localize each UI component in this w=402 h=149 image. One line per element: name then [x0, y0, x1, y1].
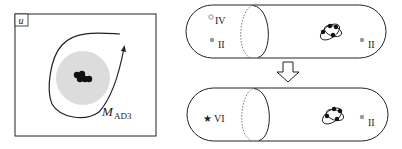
trajectory-label-subscript: AD3	[114, 111, 132, 121]
gray-dot-icon	[210, 38, 214, 42]
open-circle-icon	[209, 15, 213, 19]
arrowhead-icon	[121, 45, 126, 52]
solid-cross-section	[254, 89, 269, 141]
capsule-outline	[186, 5, 386, 58]
cell-cluster	[318, 21, 344, 43]
trajectory-label: M	[101, 104, 114, 119]
cell-cluster	[320, 105, 346, 127]
label-VI: VI	[214, 113, 225, 124]
label-IV: IV	[215, 15, 226, 26]
diagram-canvas: u M AD3 IV II II	[0, 0, 402, 149]
corner-label: u	[19, 15, 24, 26]
gray-dot-icon	[360, 115, 364, 119]
solid-cross-section	[253, 6, 268, 58]
bottom-capsule: ★ VI II	[187, 88, 388, 141]
star-icon: ★	[203, 113, 212, 124]
top-capsule: IV II II	[186, 5, 386, 58]
label-II: II	[368, 117, 375, 128]
gray-dot-icon	[360, 38, 364, 42]
label-II-left: II	[218, 39, 225, 50]
label-II-right: II	[368, 39, 375, 50]
dashed-cross-section	[241, 6, 252, 58]
down-arrow-icon	[277, 62, 299, 82]
dashed-cross-section	[242, 89, 253, 141]
left-panel: u M AD3	[15, 14, 156, 136]
